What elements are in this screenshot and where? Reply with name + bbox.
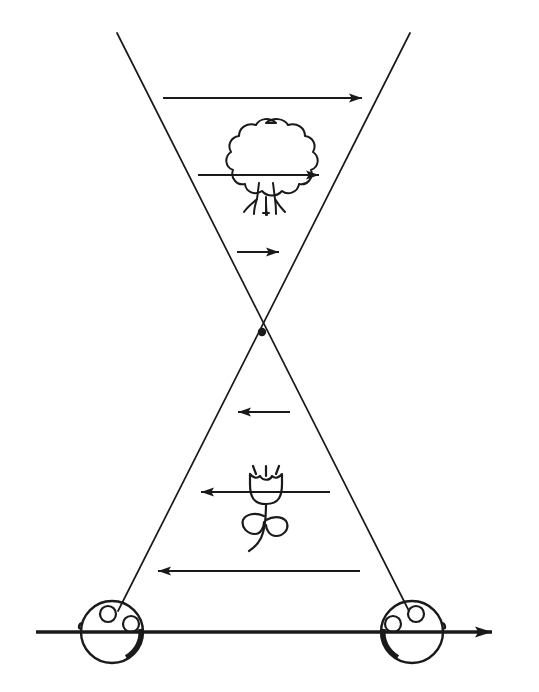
figure-illustration: [0, 0, 539, 692]
figure-container: [0, 0, 539, 692]
figure-background: [0, 0, 539, 692]
figure-caption: [0, 676, 539, 692]
crossing-point-dot: [258, 328, 266, 336]
